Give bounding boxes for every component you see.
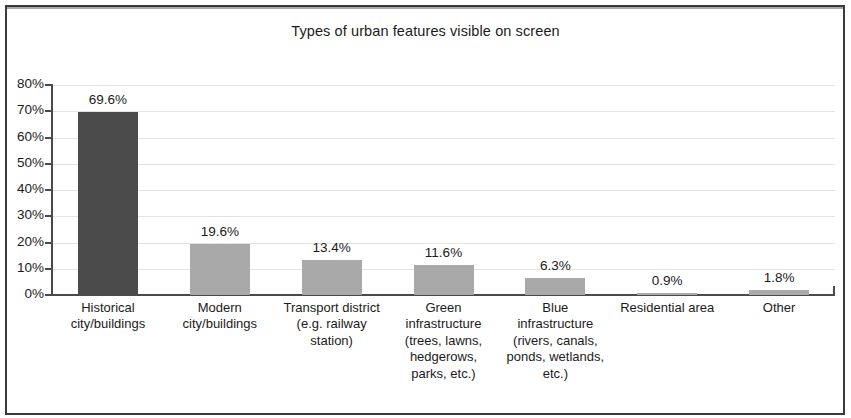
gridline <box>52 190 835 191</box>
x-axis-category-line: Green <box>425 300 461 315</box>
gridline <box>52 85 835 86</box>
x-axis-category-line: station) <box>310 333 353 348</box>
bar <box>302 260 362 295</box>
bar-value-label: 0.9% <box>607 273 727 288</box>
y-axis-tick-label: 60% <box>0 129 44 144</box>
y-axis-tick <box>45 163 53 165</box>
gridline <box>52 138 835 139</box>
plot-area <box>52 85 835 295</box>
x-axis-category-label: Residential area <box>611 300 723 316</box>
x-axis-category-line: (e.g. railway <box>297 316 367 331</box>
bar-value-label: 19.6% <box>160 224 280 239</box>
gridline <box>52 216 835 217</box>
x-axis-category-line: parks, etc.) <box>411 366 475 381</box>
x-axis-end-tick <box>833 286 835 296</box>
x-axis-category-line: city/buildings <box>71 316 145 331</box>
y-axis-tick-label: 0% <box>0 286 44 301</box>
x-axis-category-label: Greeninfrastructure(trees, lawns,hedgero… <box>388 300 500 382</box>
bar <box>749 290 809 295</box>
chart-figure: Types of urban features visible on scree… <box>0 0 851 418</box>
y-axis-tick-label: 10% <box>0 260 44 275</box>
gridline <box>52 111 835 112</box>
chart-title: Types of urban features visible on scree… <box>0 23 851 39</box>
y-axis-tick-label: 50% <box>0 155 44 170</box>
x-axis-category-line: Residential area <box>620 300 714 315</box>
x-axis-category-line: infrastructure <box>406 316 482 331</box>
bar-value-label: 6.3% <box>495 258 615 273</box>
y-axis-tick-label: 40% <box>0 181 44 196</box>
y-axis-tick-label: 30% <box>0 207 44 222</box>
figure-border-shade <box>7 7 843 9</box>
y-axis-tick <box>45 137 53 139</box>
y-axis-tick <box>45 189 53 191</box>
x-axis-category-line: etc.) <box>543 366 568 381</box>
x-axis-category-line: Other <box>763 300 796 315</box>
y-axis-tick <box>45 215 53 217</box>
x-axis-category-line: hedgerows, <box>410 349 477 364</box>
bar-value-label: 1.8% <box>719 270 839 285</box>
x-axis-category-line: city/buildings <box>183 316 257 331</box>
y-axis-tick <box>45 110 53 112</box>
bar <box>190 244 250 295</box>
x-axis-category-line: Modern <box>198 300 242 315</box>
x-axis-category-line: infrastructure <box>517 316 593 331</box>
bar <box>637 293 697 296</box>
bar <box>525 278 585 295</box>
y-axis-tick <box>45 294 53 296</box>
x-axis-category-line: Transport district <box>283 300 379 315</box>
y-axis-tick-label: 20% <box>0 234 44 249</box>
gridline <box>52 164 835 165</box>
bar <box>414 265 474 295</box>
x-axis-category-line: Historical <box>81 300 134 315</box>
x-axis-category-label: Blueinfrastructure(rivers, canals,ponds,… <box>499 300 611 382</box>
x-axis-category-line: (trees, lawns, <box>405 333 482 348</box>
y-axis-tick-label: 80% <box>0 76 44 91</box>
bar-value-label: 69.6% <box>48 92 168 107</box>
bar-value-label: 13.4% <box>272 240 392 255</box>
x-axis-category-line: Blue <box>542 300 568 315</box>
x-axis-category-line: ponds, wetlands, <box>507 349 605 364</box>
x-axis-category-label: Other <box>723 300 835 316</box>
x-axis-category-label: Transport district(e.g. railwaystation) <box>276 300 388 349</box>
bar <box>78 112 138 295</box>
y-axis-tick-label: 70% <box>0 102 44 117</box>
x-axis-category-label: Moderncity/buildings <box>164 300 276 333</box>
x-axis-category-label: Historicalcity/buildings <box>52 300 164 333</box>
y-axis-tick <box>45 242 53 244</box>
gridline <box>52 243 835 244</box>
bar-value-label: 11.6% <box>384 245 504 260</box>
y-axis-tick <box>45 268 53 270</box>
y-axis-tick <box>45 84 53 86</box>
x-axis-category-line: (rivers, canals, <box>513 333 598 348</box>
